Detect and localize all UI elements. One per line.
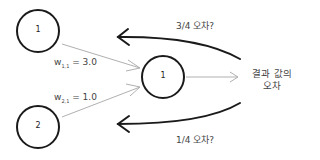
- output-error-label: 결과 값의 오차: [245, 68, 299, 92]
- weight-subscript: 1,1: [61, 63, 69, 69]
- backprop-label-top: 3/4 오차?: [176, 19, 214, 32]
- weight-value: = 1.0: [72, 92, 97, 102]
- output-error-line2: 오차: [245, 80, 299, 92]
- weight-value: = 3.0: [72, 57, 97, 67]
- input-node-1-label: 1: [28, 25, 48, 34]
- output-node-label: 1: [153, 71, 173, 80]
- backprop-arrow-bottom: [118, 103, 240, 132]
- output-arrow: [186, 72, 238, 82]
- weight-subscript: 2,1: [61, 98, 69, 104]
- output-error-line1: 결과 값의: [245, 68, 299, 80]
- backprop-arrow-top: [118, 29, 240, 59]
- weight-label-1: w1,1 = 3.0: [54, 57, 97, 69]
- input-node-2-label: 2: [28, 121, 48, 130]
- backprop-label-bottom: 1/4 오차?: [176, 133, 214, 146]
- weight-label-2: w2,1 = 1.0: [54, 92, 97, 104]
